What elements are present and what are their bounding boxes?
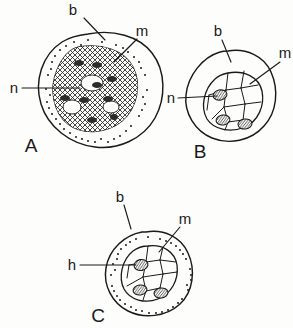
panel-label-a: A — [25, 135, 38, 156]
panel-label-c: C — [91, 305, 105, 326]
dark-patch-a-4 — [92, 82, 102, 88]
white-gap-a-2 — [63, 100, 81, 114]
label-b-b: b — [214, 22, 222, 39]
dark-patch-a-8 — [87, 117, 97, 123]
label-c-m: m — [179, 210, 192, 227]
label-b-m: m — [279, 44, 292, 61]
dark-patch-a-1 — [74, 60, 84, 66]
label-a-m: m — [136, 22, 149, 39]
dark-patch-a-7 — [103, 96, 113, 102]
label-c-b: b — [116, 188, 124, 205]
dark-patch-a-5 — [60, 95, 70, 101]
label-c-h: h — [68, 256, 76, 273]
cell-diagram-svg: b m n A — [0, 0, 293, 328]
figure-background — [0, 0, 293, 328]
dark-patch-a-3 — [107, 76, 117, 82]
dark-patch-a-2 — [92, 62, 102, 68]
dark-patch-a-9 — [110, 114, 118, 120]
label-a-n: n — [10, 79, 18, 96]
label-a-b: b — [69, 1, 77, 18]
figure-root: b m n A — [0, 0, 293, 328]
white-gap-a-3 — [103, 101, 119, 113]
dark-patch-a-6 — [79, 97, 89, 103]
panel-label-b: B — [194, 141, 207, 162]
label-b-n: n — [167, 89, 175, 106]
